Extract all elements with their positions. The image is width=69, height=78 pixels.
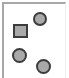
square-left — [13, 24, 28, 38]
circle-top-right — [33, 12, 47, 26]
circle-bottom-left — [12, 48, 27, 63]
circle-bottom-right — [36, 59, 51, 74]
diagram-canvas — [0, 0, 69, 78]
